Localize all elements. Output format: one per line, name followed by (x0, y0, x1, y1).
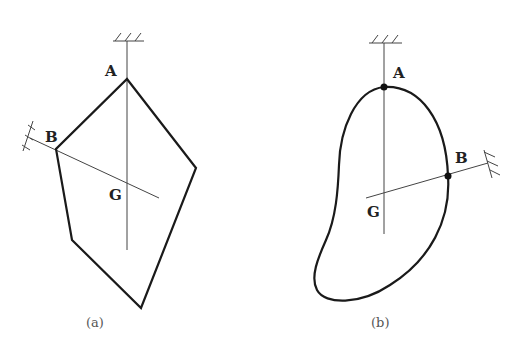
label-b-B: B (455, 149, 468, 167)
label-a-A: A (104, 62, 117, 80)
figure-b: A B G (b) (314, 35, 500, 330)
caption-a: (a) (86, 315, 104, 330)
polygon-body (56, 79, 196, 308)
pendulum-diagram: A B G (a) A B G (b) (0, 0, 522, 344)
label-b-A: A (392, 64, 405, 82)
label-a-G: G (109, 186, 122, 204)
point-B-dot (445, 173, 452, 180)
figure-a: A B G (a) (22, 33, 196, 330)
support-hatch-b-top (369, 35, 402, 43)
label-a-B: B (45, 128, 58, 146)
label-b-G: G (367, 203, 380, 221)
point-A-dot (381, 84, 388, 91)
support-hatch-a-b (22, 121, 35, 151)
caption-b: (b) (371, 315, 389, 330)
b-line-a (30, 138, 159, 198)
support-hatch-b-b (484, 150, 500, 178)
support-hatch-a-top (113, 33, 144, 41)
